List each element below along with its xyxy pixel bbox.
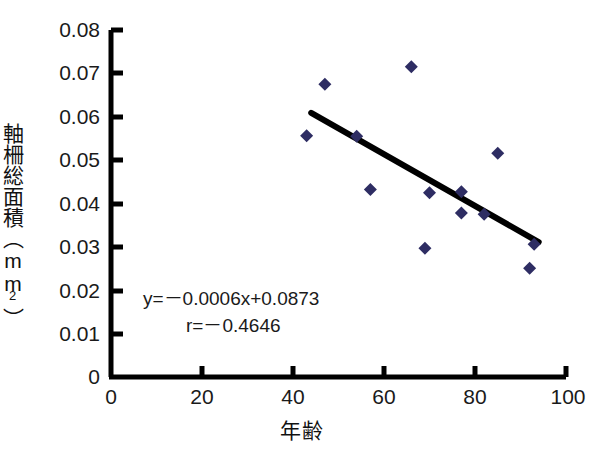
y-axis-title-superscript: 2 (9, 289, 16, 302)
x-tick-label-20: 20 (190, 385, 213, 409)
data-point (364, 183, 377, 196)
regression-equation-annotation: y=－0.0006x+0.0873 (143, 283, 319, 310)
y-tick-label-006: 0.06 (28, 105, 100, 129)
x-tick-label-80: 80 (463, 385, 486, 409)
chart-figure: 0.08 0.07 0.06 0.05 0.04 0.03 0.02 0.01 … (0, 0, 604, 452)
y-tick-label-000: 0 (28, 365, 100, 389)
y-tick-label-005: 0.05 (28, 148, 100, 172)
y-axis-title: 軸柵総面積（mm2） (2, 76, 23, 376)
data-point (418, 242, 431, 255)
x-tick-label-40: 40 (281, 385, 304, 409)
data-point (455, 207, 468, 220)
data-point (405, 60, 418, 73)
y-tick-label-003: 0.03 (28, 235, 100, 259)
data-point (523, 262, 536, 275)
y-tick-label-002: 0.02 (28, 279, 100, 303)
y-axis-title-text: 軸柵総面積（mm (2, 123, 23, 295)
y-tick-label-004: 0.04 (28, 192, 100, 216)
y-tick-label-007: 0.07 (28, 61, 100, 85)
correlation-annotation: r=－0.4646 (186, 310, 281, 337)
data-point (318, 78, 331, 91)
y-tick-label-008: 0.08 (28, 18, 100, 42)
y-axis-title-tail: ） (2, 308, 23, 329)
x-axis-title: 年齢 (0, 414, 604, 444)
x-tick-label-60: 60 (372, 385, 395, 409)
y-tick-label-001: 0.01 (28, 322, 100, 346)
x-tick-label-0: 0 (105, 385, 117, 409)
x-tick-label-100: 100 (550, 385, 585, 409)
data-point (300, 129, 313, 142)
data-point-group (300, 60, 541, 274)
data-point (491, 147, 504, 160)
data-point (423, 186, 436, 199)
trendline (311, 113, 539, 242)
